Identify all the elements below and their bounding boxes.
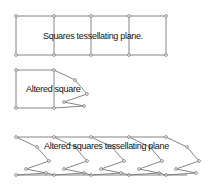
vertex-node (100, 168, 103, 171)
label-altered-tessellating: Altered squares tessellating plane (44, 141, 169, 151)
vertex-node (90, 136, 93, 139)
vertex-node (45, 172, 48, 175)
vertex-node (165, 15, 168, 18)
vertex-node (15, 54, 18, 57)
vertex-node (86, 93, 89, 96)
vertex-node (198, 160, 201, 163)
vertex-node (86, 160, 89, 163)
vertex-node (128, 54, 131, 57)
vertex-node (83, 105, 86, 108)
vertex-node (53, 69, 56, 72)
vertex-node (128, 15, 131, 18)
vertex-node (123, 160, 126, 163)
label-altered-square: Altered square (26, 84, 80, 94)
vertex-node (53, 136, 56, 139)
vertex-node (165, 136, 168, 139)
vertex-node (128, 136, 131, 139)
vertex-node (138, 168, 141, 171)
vertex-node (63, 101, 66, 104)
vertex-node (53, 15, 56, 18)
vertex-node (195, 172, 198, 175)
vertex-node (15, 174, 18, 177)
vertex-node (165, 54, 168, 57)
vertex-node (186, 146, 189, 149)
vertex-node (48, 160, 51, 163)
vertex-node (90, 15, 93, 18)
vertex-node (15, 107, 18, 110)
vertex-node (90, 54, 93, 57)
vertex-node (161, 160, 164, 163)
vertex-node (25, 168, 28, 171)
vertex-node (74, 79, 77, 82)
vertex-node (36, 146, 39, 149)
vertex-node (15, 15, 18, 18)
vertex-node (15, 69, 18, 72)
vertex-node (53, 54, 56, 57)
vertex-node (63, 168, 66, 171)
vertex-node (175, 168, 178, 171)
vertex-node (15, 136, 18, 139)
vertex-node (120, 172, 123, 175)
vertex-node (53, 107, 56, 110)
label-squares-tessellating: Squares tessellating plane. (43, 31, 143, 41)
